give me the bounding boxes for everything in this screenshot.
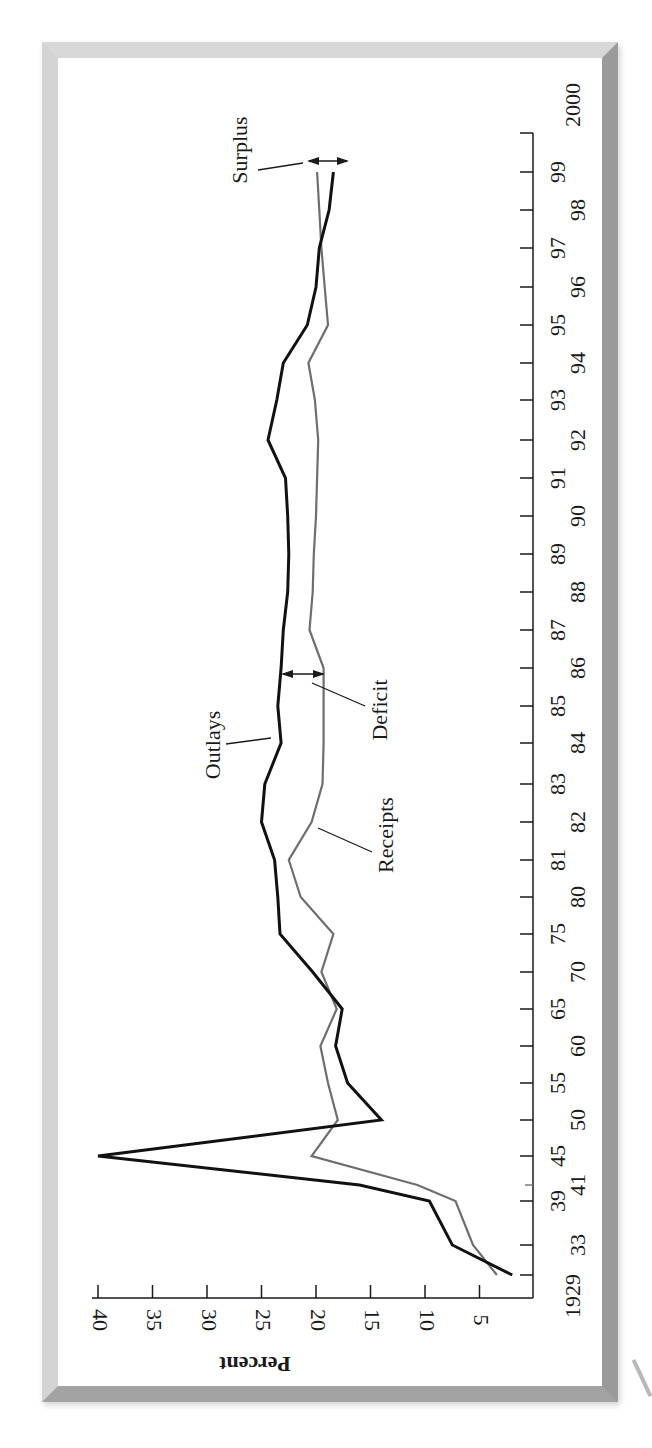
year-tick-label: 84 xyxy=(565,732,590,754)
year-tick-label: 93 xyxy=(545,389,570,411)
year-tick-label: 70 xyxy=(565,961,590,983)
percent-tick-label: 35 xyxy=(142,1309,167,1331)
year-ticks: 1929333941455055606570758081828384858687… xyxy=(520,83,590,1318)
annotations: Outlays Receipts Deficit Surplus xyxy=(200,116,398,873)
year-tick-label: 45 xyxy=(545,1145,570,1167)
year-tick-label: 75 xyxy=(545,923,570,945)
year-tick-label: 41 xyxy=(565,1174,590,1196)
year-tick-label: 85 xyxy=(545,695,570,717)
year-tick-label: 86 xyxy=(565,657,590,679)
year-tick-label: 65 xyxy=(545,998,570,1020)
surplus-label: Surplus xyxy=(227,116,252,183)
year-tick-label: 88 xyxy=(565,581,590,603)
year-tick-label: 55 xyxy=(545,1072,570,1094)
year-tick-label: 82 xyxy=(565,811,590,833)
line-chart: 1929333941455055606570758081828384858687… xyxy=(0,0,652,1448)
year-tick-label: 97 xyxy=(545,237,570,259)
percent-tick-label: 15 xyxy=(360,1309,385,1331)
year-tick-label: 94 xyxy=(565,352,590,374)
deficit-label: Deficit xyxy=(367,679,392,740)
year-tick-label: 99 xyxy=(545,161,570,183)
outlays-label: Outlays xyxy=(200,711,225,779)
year-tick-label: 83 xyxy=(545,773,570,795)
year-tick-label: 91 xyxy=(545,467,570,489)
receipts-label: Receipts xyxy=(373,797,398,873)
year-tick-label: 87 xyxy=(545,619,570,641)
year-tick-label: 92 xyxy=(565,429,590,451)
surplus-leader-line xyxy=(258,163,303,170)
axes: 1929333941455055606570758081828384858687… xyxy=(88,83,590,1331)
year-tick-label: 96 xyxy=(565,276,590,298)
surplus-arrowhead-right-icon xyxy=(337,157,349,165)
year-tick-label: 1929 xyxy=(560,1274,585,1318)
year-tick-label: 81 xyxy=(545,849,570,871)
deficit-arrowhead-left-icon xyxy=(281,670,293,678)
year-tick-label: 2000 xyxy=(560,83,585,127)
receipts-leader-line xyxy=(318,828,372,852)
year-tick-label: 50 xyxy=(565,1109,590,1131)
percent-ticks: 403530252015105 xyxy=(88,1285,495,1331)
percent-tick-label: 10 xyxy=(415,1309,440,1331)
percent-tick-label: 30 xyxy=(197,1309,222,1331)
year-tick-label: 33 xyxy=(565,1234,590,1256)
year-tick-label: 98 xyxy=(565,199,590,221)
percent-tick-label: 25 xyxy=(251,1309,276,1331)
percent-tick-label: 5 xyxy=(469,1315,494,1326)
year-tick-label: 89 xyxy=(545,543,570,565)
year-tick-label: 90 xyxy=(565,505,590,527)
receipts-line xyxy=(289,172,497,1275)
outlays-leader-line xyxy=(226,738,271,744)
deficit-leader-line xyxy=(312,683,365,706)
percent-axis-title: Percent xyxy=(219,1352,291,1377)
year-tick-label: 80 xyxy=(565,886,590,908)
year-tick-label: 60 xyxy=(565,1035,590,1057)
percent-tick-label: 40 xyxy=(88,1309,113,1331)
outlays-line xyxy=(98,172,512,1275)
percent-tick-label: 20 xyxy=(306,1309,331,1331)
year-tick-label: 95 xyxy=(545,314,570,336)
surplus-arrowhead-left-icon xyxy=(307,157,319,165)
